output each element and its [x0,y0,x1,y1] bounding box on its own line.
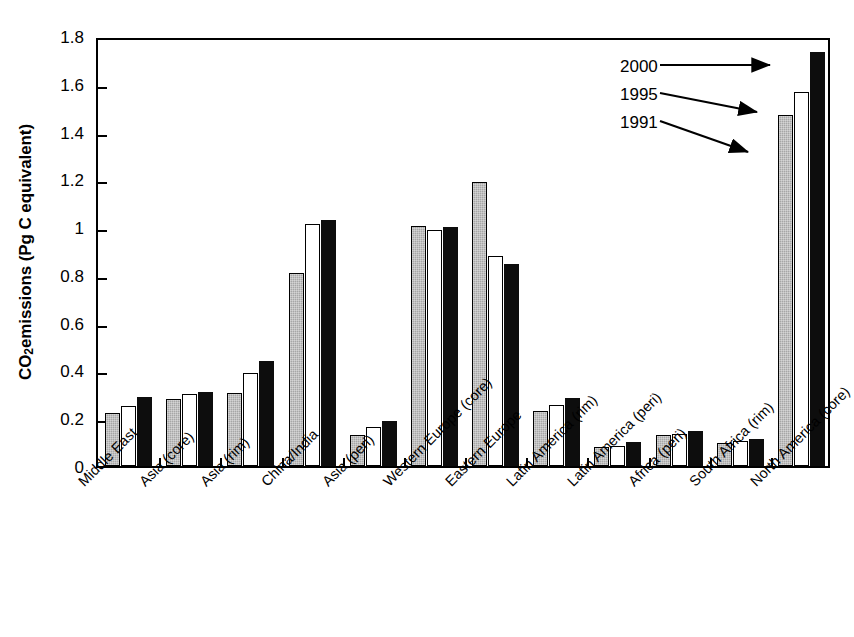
annotation-label-1991: 1991 [620,113,658,133]
bar-group [289,40,336,466]
y-tick-label: 0.2 [38,410,84,430]
bar-1991 [472,182,487,466]
bar-group [105,40,152,466]
bar-2000 [259,361,274,466]
y-tick-label: 1.6 [38,76,84,96]
bar-2000 [198,392,213,466]
bar-1991 [778,115,793,466]
bar-group [472,40,519,466]
bar-group [778,40,825,466]
bar-group [350,40,397,466]
bar-group [166,40,213,466]
bar-group [227,40,274,466]
y-axis-title-subscript: 2 [22,348,36,355]
y-tick-label: 1.8 [38,28,84,48]
bar-1991 [411,226,426,466]
y-tick-label: 1 [38,219,84,239]
bar-1995 [794,92,809,466]
annotation-label-1995: 1995 [620,85,658,105]
y-axis-tick-labels: 00.20.40.60.811.21.41.61.8 [38,38,84,468]
bar-group [717,40,764,466]
bar-2000 [137,397,152,466]
annotation-label-2000: 2000 [620,57,658,77]
y-tick-label: 0.6 [38,315,84,335]
y-axis-title-pre: CO [16,355,36,380]
bar-1995 [243,373,258,466]
y-tick-label: 1.4 [38,124,84,144]
co2-emissions-bar-chart: CO2 emissions (Pg C equivalent) 00.20.40… [0,0,854,637]
bar-2000 [321,220,336,466]
bar-2000 [382,421,397,466]
bar-group [533,40,580,466]
y-tick-label: 1.2 [38,171,84,191]
y-tick-label: 0.4 [38,362,84,382]
bar-group [656,40,703,466]
bar-group [411,40,458,466]
y-tick-label: 0.8 [38,267,84,287]
y-axis-title-post: emissions (Pg C equivalent) [16,124,36,348]
bar-2000 [688,431,703,466]
